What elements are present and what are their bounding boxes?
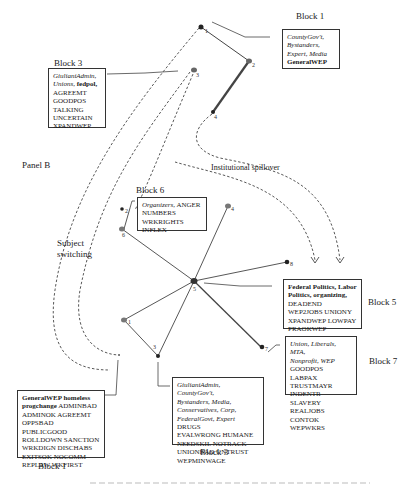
institutional-spillover-curves: [175, 114, 340, 260]
block-code: GOODPOS LABPAX: [290, 365, 352, 382]
block-text: Organizers,: [142, 201, 175, 209]
block1-bottom-box: GeneralWEP homeless progchange ADMINBAD …: [17, 390, 105, 458]
block3-top-box: GiulianiAdmin, Unions, fedpol, AGREEMT G…: [48, 68, 106, 128]
svg-text:6: 6: [122, 232, 125, 238]
block5-box: Federal Politics, Labor Politics, organi…: [283, 279, 362, 329]
block-text: FederalGovt, Expert: [177, 415, 235, 423]
block1-bottom-title: Block 1: [38, 461, 66, 471]
block-code: ROLLDOWN SANCTION: [22, 436, 100, 444]
svg-text:2: 2: [252, 62, 255, 68]
subject-switching-label: Subject switching: [57, 238, 92, 260]
block-code: WEPMINWAGE: [177, 457, 259, 465]
block-text: progchange: [22, 402, 57, 410]
block7-title: Block 7: [369, 356, 397, 366]
subject-switching-line2: switching: [57, 249, 92, 260]
block-code: TALKING: [53, 106, 101, 114]
block-code: XPANDWEP: [53, 122, 101, 130]
block6-title: Block 6: [136, 185, 164, 195]
block-text: Conservatives, Corp,: [177, 406, 259, 414]
block-code: EXITSOK NOCOMM: [22, 453, 100, 461]
block3-bottom-title: Block 3: [200, 447, 228, 457]
block1-top-title: Block 1: [296, 11, 324, 21]
institutional-spillover-label: Institutional spillover: [211, 163, 280, 172]
block-text: fedpol,: [77, 80, 97, 88]
svg-text:8: 8: [290, 261, 293, 267]
block-code: NUMBERS: [142, 209, 202, 217]
block-text: GiulianiAdmin, CountyGov't,: [177, 381, 259, 398]
block-code: AGREEMT: [53, 89, 101, 97]
block-code: EVALWRONG HUMANE: [177, 431, 259, 439]
block-text: Union, Liberals, MTA,: [290, 340, 352, 357]
block6-box: Organizers, ANGER NUMBERS WRKRIGHTS INFL…: [137, 197, 207, 231]
block7-box: Union, Liberals, MTA, Nonprofit, WEP GOO…: [285, 336, 357, 395]
block-code: INDENTR SLAVERY: [290, 390, 352, 407]
block3-bottom-box: GiulianiAdmin, CountyGov't, Bystanders, …: [172, 377, 264, 445]
block-code: ANGER: [176, 201, 200, 209]
svg-text:3: 3: [196, 72, 199, 78]
subject-switching-leader: [105, 360, 118, 395]
svg-text:1: 1: [205, 28, 208, 34]
block5-title: Block 5: [368, 297, 396, 307]
top-nodes: 1 2 3 4: [191, 25, 255, 121]
block-code: INFLEX: [142, 226, 202, 234]
block-code: ADMINBAD: [58, 402, 97, 410]
block-code: WEP2JOBS UNIONY: [288, 308, 357, 316]
block-code: OPPSBAD PUBLICGOOD: [22, 419, 100, 436]
svg-text:3: 3: [153, 344, 156, 350]
block-text: Nonprofit, WEP: [290, 357, 352, 365]
block-text: Bystanders, Media,: [177, 398, 259, 406]
svg-text:4: 4: [214, 114, 217, 120]
subject-switching-line1: Subject: [57, 238, 92, 249]
block-code: ADMINOK AGREEMT: [22, 411, 100, 419]
svg-text:2: 2: [125, 208, 128, 214]
block-code: REALJOBS CONTOK: [290, 407, 352, 424]
block-text: CountyGov't,: [287, 33, 335, 41]
block-text: GeneralWEP: [287, 58, 335, 66]
block3-top-title: Block 3: [54, 58, 82, 68]
panel-label: Panel B: [22, 160, 50, 170]
block-code: WRKDIGN DISCHABS: [22, 444, 100, 452]
block-text: GeneralWEP homeless: [22, 394, 100, 402]
block-text: Bystanders,: [287, 41, 335, 49]
block-code: DRUGS: [177, 423, 201, 431]
block-code: PRAOKWEP: [288, 325, 357, 333]
spillover-arrowheads: [311, 257, 344, 263]
block-code: DEADEND: [288, 300, 357, 308]
top-network: [107, 22, 270, 112]
svg-text:7: 7: [265, 346, 268, 352]
block-code: UNCERTAIN: [53, 114, 101, 122]
svg-text:1: 1: [128, 319, 131, 325]
svg-text:5: 5: [193, 286, 196, 292]
block-code: WEPWKRS: [290, 424, 352, 432]
block-code: GOODPOS: [53, 97, 101, 105]
block-text: Expert, Media: [287, 50, 335, 58]
block1-top-box: CountyGov't, Bystanders, Expert, Media G…: [282, 29, 340, 69]
block-text: Federal Politics, Labor: [288, 283, 357, 291]
svg-text:4: 4: [231, 206, 234, 212]
block-code: WRKRIGHTS: [142, 218, 202, 226]
block-code: TRUSTMAYR: [290, 382, 352, 390]
block-code: XPANDWEP LOWPAY: [288, 317, 357, 325]
block-text: Politics, organizing,: [288, 291, 357, 299]
